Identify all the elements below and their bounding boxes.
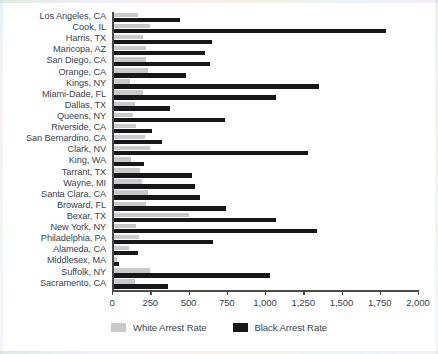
bar-white-arrest-rate: [112, 190, 148, 194]
category-label: San Diego, CA: [0, 55, 106, 66]
x-tick-mark: [265, 290, 266, 295]
legend-item[interactable]: Black Arrest Rate: [233, 322, 327, 333]
bar-black-arrest-rate: [112, 95, 276, 99]
x-tick-mark: [303, 290, 304, 295]
category-label: Bexar, TX: [0, 211, 106, 222]
category-label: New York, NY: [0, 222, 106, 233]
bar-white-arrest-rate: [112, 24, 150, 28]
category-label: King, WA: [0, 155, 106, 166]
x-tick-mark: [189, 290, 190, 295]
bar-white-arrest-rate: [112, 224, 136, 228]
category-label: Sacramento, CA: [0, 278, 106, 289]
bar-black-arrest-rate: [112, 51, 205, 55]
x-tick-label: 0: [109, 297, 114, 308]
bar-black-arrest-rate: [112, 206, 226, 210]
bar-white-arrest-rate: [112, 235, 139, 239]
bar-white-arrest-rate: [112, 90, 143, 94]
category-label: Queens, NY: [0, 111, 106, 122]
bar-black-arrest-rate: [112, 273, 270, 277]
category-label: Broward, FL: [0, 200, 106, 211]
bar-white-arrest-rate: [112, 135, 145, 139]
category-label: Middlesex, MA: [0, 255, 106, 266]
bar-black-arrest-rate: [112, 18, 180, 22]
bar-white-arrest-rate: [112, 202, 146, 206]
bar-white-arrest-rate: [112, 279, 135, 283]
bar-white-arrest-rate: [112, 113, 133, 117]
x-tick-label: 1,500: [330, 297, 354, 308]
image-edge-artifact-top: [0, 0, 438, 3]
category-label: Los Angeles, CA: [0, 11, 106, 22]
bar-white-arrest-rate: [112, 46, 146, 50]
x-tick-mark: [380, 290, 381, 295]
bar-white-arrest-rate: [112, 79, 130, 83]
x-tick-mark: [418, 290, 419, 295]
x-tick-label: 750: [219, 297, 235, 308]
bar-white-arrest-rate: [112, 179, 142, 183]
y-axis-line: [112, 12, 114, 290]
x-tick-label: 1,750: [368, 297, 392, 308]
x-tick-label: 2,000: [406, 297, 430, 308]
bar-black-arrest-rate: [112, 184, 195, 188]
bar-black-arrest-rate: [112, 284, 168, 288]
bar-white-arrest-rate: [112, 268, 150, 272]
bar-white-arrest-rate: [112, 102, 135, 106]
bar-white-arrest-rate: [112, 68, 148, 72]
category-label: Dallas, TX: [0, 100, 106, 111]
category-label: Maricopa, AZ: [0, 44, 106, 55]
category-label: Riverside, CA: [0, 122, 106, 133]
category-label: Wayne, MI: [0, 178, 106, 189]
bar-black-arrest-rate: [112, 73, 186, 77]
bar-black-arrest-rate: [112, 251, 138, 255]
category-label: Miami-Dade, FL: [0, 89, 106, 100]
bar-black-arrest-rate: [112, 40, 212, 44]
bar-black-arrest-rate: [112, 240, 213, 244]
bar-white-arrest-rate: [112, 146, 150, 150]
bar-black-arrest-rate: [112, 218, 276, 222]
category-label: Cook, IL: [0, 22, 106, 33]
black-swatch-icon: [233, 323, 248, 332]
bar-white-arrest-rate: [112, 246, 129, 250]
arrest-rate-bar-chart: Los Angeles, CACook, ILHarris, TXMaricop…: [0, 0, 438, 354]
x-tick-mark: [150, 290, 151, 295]
x-tick-label: 250: [142, 297, 158, 308]
category-label: Alameda, CA: [0, 244, 106, 255]
legend-item[interactable]: White Arrest Rate: [111, 322, 206, 333]
bar-white-arrest-rate: [112, 124, 136, 128]
bar-white-arrest-rate: [112, 157, 131, 161]
bar-black-arrest-rate: [112, 29, 386, 33]
chart-legend: White Arrest RateBlack Arrest Rate: [0, 322, 438, 333]
bar-black-arrest-rate: [112, 106, 170, 110]
bar-black-arrest-rate: [112, 162, 144, 166]
category-label: Harris, TX: [0, 33, 106, 44]
white-swatch-icon: [111, 323, 126, 332]
legend-label: White Arrest Rate: [133, 322, 206, 333]
category-label: Santa Clara, CA: [0, 189, 106, 200]
bar-black-arrest-rate: [112, 118, 225, 122]
bar-rows: Los Angeles, CACook, ILHarris, TXMaricop…: [0, 12, 438, 290]
x-tick-mark: [112, 290, 113, 295]
bar-white-arrest-rate: [112, 13, 138, 17]
bar-white-arrest-rate: [112, 168, 140, 172]
bar-black-arrest-rate: [112, 173, 192, 177]
bar-white-arrest-rate: [112, 213, 189, 217]
category-label: Philadelphia, PA: [0, 233, 106, 244]
bar-black-arrest-rate: [112, 151, 308, 155]
chart-row: Sacramento, CA: [0, 279, 438, 290]
x-tick-mark: [342, 290, 343, 295]
bar-black-arrest-rate: [112, 129, 152, 133]
x-tick-label: 500: [181, 297, 197, 308]
x-tick-label: 1,250: [291, 297, 315, 308]
category-label: San Bernardino, CA: [0, 133, 106, 144]
bar-black-arrest-rate: [112, 195, 200, 199]
x-tick-label: 1,000: [253, 297, 277, 308]
bar-black-arrest-rate: [112, 229, 317, 233]
plot-area: Los Angeles, CACook, ILHarris, TXMaricop…: [0, 12, 438, 290]
bar-black-arrest-rate: [112, 84, 319, 88]
category-label: Clark, NV: [0, 144, 106, 155]
bar-black-arrest-rate: [112, 62, 210, 66]
legend-label: Black Arrest Rate: [255, 322, 327, 333]
bar-white-arrest-rate: [112, 35, 143, 39]
x-tick-mark: [227, 290, 228, 295]
category-label: Kings, NY: [0, 78, 106, 89]
category-label: Tarrant, TX: [0, 167, 106, 178]
